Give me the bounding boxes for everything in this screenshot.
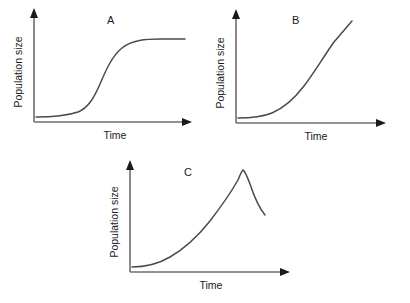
panel-b-x-axis-label: Time bbox=[305, 130, 328, 142]
panel-a: A Time Population size bbox=[12, 8, 192, 141]
panel-c-x-axis-arrow-icon bbox=[280, 268, 290, 276]
panel-c-y-axis-arrow-icon bbox=[126, 160, 134, 170]
panel-a-x-axis-label: Time bbox=[104, 129, 127, 141]
panel-b: B Time Population size bbox=[214, 9, 386, 142]
panel-c-growth-crash-curve bbox=[132, 170, 265, 267]
panel-a-letter: A bbox=[107, 14, 115, 26]
panel-b-exponential-growth-curve bbox=[238, 21, 352, 118]
panel-a-x-axis-arrow-icon bbox=[182, 118, 192, 126]
panel-a-y-axis-label: Population size bbox=[12, 36, 24, 107]
panel-c: C Time Population size bbox=[108, 160, 290, 291]
panel-b-y-axis-label: Population size bbox=[214, 37, 226, 108]
panel-c-y-axis-label: Population size bbox=[108, 186, 120, 257]
panel-c-letter: C bbox=[184, 166, 192, 178]
panel-b-x-axis-arrow-icon bbox=[376, 119, 386, 127]
panel-a-y-axis-arrow-icon bbox=[30, 8, 38, 18]
panel-c-x-axis-label: Time bbox=[200, 279, 223, 291]
panel-a-logistic-growth-curve bbox=[36, 39, 185, 117]
panel-b-letter: B bbox=[292, 14, 299, 26]
figure-canvas: A Time Population size B Time Population… bbox=[0, 0, 410, 303]
panel-b-y-axis-arrow-icon bbox=[232, 9, 240, 19]
population-growth-figure: A Time Population size B Time Population… bbox=[0, 0, 410, 303]
